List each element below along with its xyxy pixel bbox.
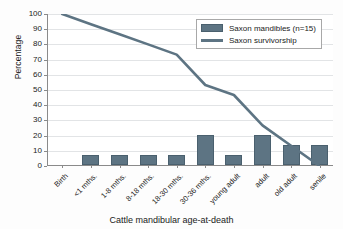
y-tick-label: 60 [21, 71, 42, 79]
y-tick-label: 100 [21, 10, 42, 18]
x-tick-mark [62, 165, 63, 168]
legend-bar-swatch-icon [201, 24, 223, 32]
legend-item-saxon-mandibles: Saxon mandibles (n=15) [201, 23, 316, 33]
y-tick-label: 20 [21, 132, 42, 140]
x-tick-mark [291, 165, 292, 168]
x-tick-mark [177, 165, 178, 168]
x-tick-mark [234, 165, 235, 168]
legend-item-saxon-survivorship: Saxon survivorship [201, 35, 316, 45]
y-tick-label: 0 [21, 162, 42, 170]
y-tick-label: 40 [21, 101, 42, 109]
legend-item-label: Saxon mandibles (n=15) [229, 24, 316, 33]
y-tick-label: 90 [21, 25, 42, 33]
x-tick-mark [205, 165, 206, 168]
chart-legend: Saxon mandibles (n=15) Saxon survivorshi… [196, 19, 322, 49]
y-tick-label: 10 [21, 147, 42, 155]
x-tick-mark [148, 165, 149, 168]
x-tick-mark [320, 165, 321, 168]
y-tick-label: 50 [21, 86, 42, 94]
y-tick-label: 80 [21, 40, 42, 48]
x-axis-title: Cattle mandibular age-at-death [0, 215, 343, 225]
chart-container: Percentage 0102030405060708090100 Birth<… [0, 0, 343, 229]
x-tick-mark [120, 165, 121, 168]
legend-item-label: Saxon survivorship [229, 36, 297, 45]
x-tick-mark [263, 165, 264, 168]
y-tick-label: 30 [21, 116, 42, 124]
legend-line-swatch-icon [201, 36, 223, 44]
y-tick-mark [44, 166, 47, 167]
x-tick-mark [91, 165, 92, 168]
y-tick-label: 70 [21, 56, 42, 64]
